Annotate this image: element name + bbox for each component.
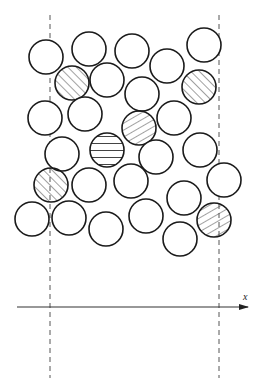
hatched-particle-circle	[55, 66, 89, 100]
particle-circle	[167, 181, 201, 215]
particle-circle	[68, 97, 102, 131]
particle-circle	[72, 32, 106, 66]
hatched-particle-circle	[182, 70, 216, 104]
hatched-particle-circle	[197, 203, 231, 237]
particle-circle	[29, 40, 63, 74]
particle-circle	[157, 101, 191, 135]
particle-diagram: x	[0, 0, 260, 381]
particle-circle	[207, 163, 241, 197]
x-axis-label: x	[242, 291, 248, 302]
particle-circle	[129, 199, 163, 233]
particles-group	[15, 28, 241, 256]
particle-circle	[187, 28, 221, 62]
particle-circle	[52, 201, 86, 235]
particle-circle	[89, 212, 123, 246]
particle-circle	[163, 222, 197, 256]
x-axis: x	[17, 291, 248, 307]
particle-circle	[150, 49, 184, 83]
hatched-particle-circle	[34, 168, 68, 202]
particle-circle	[125, 77, 159, 111]
particle-circle	[139, 140, 173, 174]
particle-circle	[72, 168, 106, 202]
hatched-particle-circle	[122, 111, 156, 145]
particle-circle	[15, 202, 49, 236]
particle-circle	[114, 164, 148, 198]
hatched-particle-circle	[90, 133, 124, 167]
particle-circle	[28, 101, 62, 135]
particle-circle	[45, 137, 79, 171]
particle-circle	[90, 63, 124, 97]
particle-circle	[183, 133, 217, 167]
particle-circle	[115, 34, 149, 68]
